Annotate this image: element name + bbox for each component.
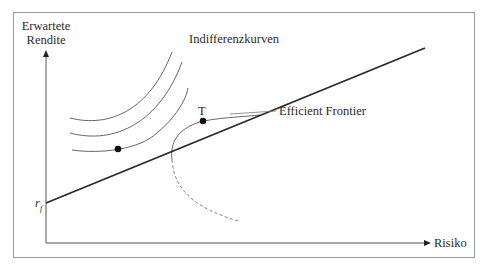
x-axis [46,240,431,246]
indifference-curves-label: Indifferenzkurven [189,32,279,46]
risk-free-rate-label: rf [35,196,42,216]
indifference-curve-3 [72,88,188,151]
capital-market-line [46,48,425,203]
indifference-curve-1 [70,52,172,121]
rf-label-subscript: f [40,204,42,213]
y-axis-label-line2: Rendite [14,33,78,47]
optimal-portfolio-point [115,146,122,153]
x-axis-arrow-icon [424,240,431,246]
tangent-point-T [200,118,207,125]
inefficient-frontier-dashed [172,160,238,221]
efficient-frontier-label: Efficient Frontier [279,104,366,118]
y-axis [43,50,49,243]
x-axis-label: Risiko [434,236,467,250]
y-axis-arrow-icon [43,50,49,57]
tangent-point-label: T [198,104,206,118]
y-axis-label: Erwartete Rendite [14,19,78,47]
diagram-frame [14,13,475,258]
y-axis-label-line1: Erwartete [14,19,78,33]
indifference-curves [70,52,188,151]
